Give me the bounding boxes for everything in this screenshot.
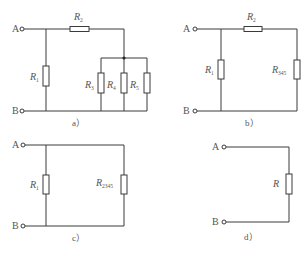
resistor-r3 xyxy=(98,73,104,93)
label-r: R xyxy=(272,178,279,189)
terminal-a-top xyxy=(20,27,24,31)
terminal-label-d-top: A xyxy=(212,141,220,152)
wire-top-rail xyxy=(24,29,124,58)
resistor-r345 xyxy=(294,60,300,79)
terminal-label-b-top: A xyxy=(183,23,191,34)
label-r1: R1 xyxy=(29,71,39,83)
caption-c: c） xyxy=(72,233,85,243)
resistor-r4 xyxy=(121,73,127,93)
terminal-label-a-bottom: B xyxy=(12,105,19,116)
label-r5: R5 xyxy=(129,79,139,91)
terminal-c-top xyxy=(21,143,25,147)
wire-loop xyxy=(226,147,289,222)
panel-d: A B R d） xyxy=(212,141,292,242)
resistor-r1 xyxy=(43,66,49,86)
resistor-r2 xyxy=(70,27,89,32)
label-r2: R2 xyxy=(246,11,256,23)
caption-d: d） xyxy=(244,232,258,242)
panel-c: A B R1 R2345 c） xyxy=(12,139,127,243)
label-r2: R2 xyxy=(73,11,83,23)
caption-b: b） xyxy=(245,118,259,128)
terminal-a-bottom xyxy=(20,109,24,113)
resistor-r1 xyxy=(218,60,224,79)
terminal-label-b-bottom: B xyxy=(183,105,190,116)
terminal-b-top xyxy=(193,27,197,31)
terminal-label-d-bottom: B xyxy=(212,216,219,227)
terminal-d-bottom xyxy=(222,220,226,224)
panel-a: A B R1 R2 R3 R4 R5 a） xyxy=(12,11,150,128)
circuit-reduction-figure: A B R1 R2 R3 R4 R5 a） A B xyxy=(0,0,307,256)
label-r4: R4 xyxy=(106,79,116,91)
label-r1: R1 xyxy=(204,64,214,76)
terminal-label-c-bottom: B xyxy=(12,220,19,231)
label-r1: R1 xyxy=(29,179,39,191)
terminal-b-bottom xyxy=(193,109,197,113)
caption-a: a） xyxy=(72,118,85,128)
resistor-r5 xyxy=(144,73,150,93)
terminal-label-a-top: A xyxy=(12,23,20,34)
resistor-r2345 xyxy=(121,175,127,194)
terminal-label-c-top: A xyxy=(12,139,20,150)
label-r345: R345 xyxy=(271,64,287,76)
panel-b: A B R1 R2 R345 b） xyxy=(183,11,300,128)
terminal-d-top xyxy=(222,145,226,149)
resistor-r xyxy=(286,174,292,194)
label-r2345: R2345 xyxy=(95,177,113,189)
label-r3: R3 xyxy=(84,79,94,91)
resistor-r1 xyxy=(43,175,49,194)
terminal-c-bottom xyxy=(21,224,25,228)
resistor-r2 xyxy=(244,27,262,32)
